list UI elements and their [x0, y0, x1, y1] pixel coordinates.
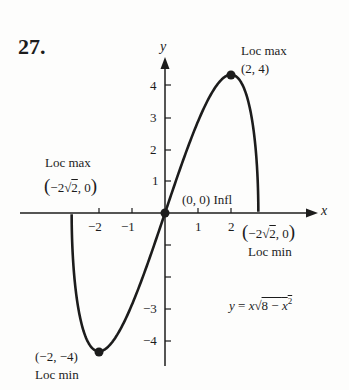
loc-max-top-label: Loc max: [241, 44, 287, 57]
y-tick-label-1: 1: [152, 174, 159, 187]
y-tick-label-2: 2: [150, 143, 157, 156]
local-max-point: [227, 71, 236, 80]
sqrt-icon: √: [254, 298, 261, 313]
x-tick-label-1: 1: [195, 220, 202, 233]
y-axis-label: y: [160, 40, 166, 54]
right-paren: ): [289, 221, 295, 242]
y-tick-label-neg4: −4: [143, 334, 157, 347]
y-tick-label-neg3: −3: [143, 302, 157, 315]
figure-27: 27. y x 4 3 2 1 −3 −4 −2 −1 1 2 Loc max …: [0, 0, 349, 390]
origin-label: (0, 0) Infl: [182, 193, 232, 206]
problem-number: 27.: [18, 36, 46, 58]
loc-max-left-label: Loc max: [45, 156, 91, 169]
inflection-point: [161, 209, 170, 218]
x-tick-label-neg1: −1: [121, 220, 135, 233]
local-min-point: [95, 348, 104, 357]
right-paren: ): [91, 175, 97, 196]
x-tick-label-2: 2: [228, 220, 235, 233]
y-tick-label-3: 3: [150, 111, 157, 124]
y-axis-arrow-icon: [161, 57, 170, 69]
left-root-coord: (−2√2, 0): [44, 176, 97, 195]
right-root-coord: (−2√2, 0): [242, 222, 295, 241]
loc-min-bottom-coord: (−2, −4): [35, 350, 78, 363]
x-axis-label: x: [321, 204, 327, 218]
loc-min-bottom-label: Loc min: [35, 368, 79, 381]
y-tick-label-4: 4: [150, 79, 157, 92]
loc-max-top-coord: (2, 4): [241, 62, 269, 75]
function-graph: [0, 0, 349, 390]
x-axis-arrow-icon: [306, 209, 318, 218]
x-tick-label-neg2: −2: [88, 220, 102, 233]
loc-min-right-label: Loc min: [248, 245, 292, 258]
equation-label: y = x√8 − x2: [229, 297, 292, 312]
